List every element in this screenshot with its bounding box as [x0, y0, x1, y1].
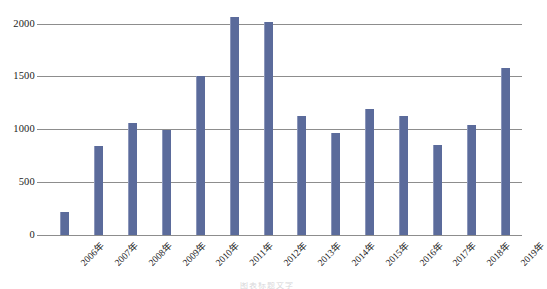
footer-caption: 图表标题文字: [0, 282, 534, 289]
bar: [196, 76, 205, 235]
y-tick-mark-0: [37, 235, 48, 236]
bar: [94, 146, 103, 235]
x-axis-tick-label: 2016年: [418, 241, 445, 268]
bar: [162, 130, 171, 235]
bar: [433, 145, 442, 235]
bar: [60, 212, 69, 235]
bar: [365, 109, 374, 235]
x-axis-tick-label: 2013年: [316, 241, 343, 268]
x-axis-tick-label: 2011年: [249, 241, 276, 268]
bar: [399, 116, 408, 235]
y-axis-tick-label: 1000: [13, 124, 35, 135]
plot-area: 0500100015002000: [48, 24, 522, 235]
x-axis-tick-label: 2018年: [486, 241, 513, 268]
bar: [501, 68, 510, 235]
x-axis-tick-label: 2019年: [520, 241, 547, 268]
x-axis-labels: 2006年2007年2008年2009年2010年2011年2012年2013年…: [48, 235, 522, 275]
y-axis-tick-label: 500: [19, 177, 35, 188]
bar: [230, 17, 239, 235]
y-tick-mark-1500: [37, 76, 48, 77]
y-axis-tick-label: 1500: [13, 71, 35, 82]
x-axis-tick-label: 2008年: [147, 241, 174, 268]
bar: [297, 116, 306, 235]
bars-layer: [48, 24, 522, 235]
x-axis-tick-label: 2015年: [384, 241, 411, 268]
x-axis-tick-label: 2007年: [113, 241, 140, 268]
x-axis-tick-label: 2014年: [350, 241, 377, 268]
bar: [331, 133, 340, 235]
y-tick-mark-2000: [37, 24, 48, 25]
x-axis-tick-label: 2017年: [452, 241, 479, 268]
y-axis-tick-label: 0: [30, 229, 35, 240]
bar: [264, 22, 273, 235]
bar: [128, 123, 137, 235]
y-tick-mark-500: [37, 182, 48, 183]
x-axis-tick-label: 2006年: [79, 241, 106, 268]
bar: [467, 125, 476, 235]
y-tick-mark-1000: [37, 129, 48, 130]
x-axis-tick-label: 2010年: [215, 241, 242, 268]
x-axis-tick-label: 2012年: [283, 241, 310, 268]
x-axis-tick-label: 2009年: [181, 241, 208, 268]
y-axis-tick-label: 2000: [13, 18, 35, 29]
